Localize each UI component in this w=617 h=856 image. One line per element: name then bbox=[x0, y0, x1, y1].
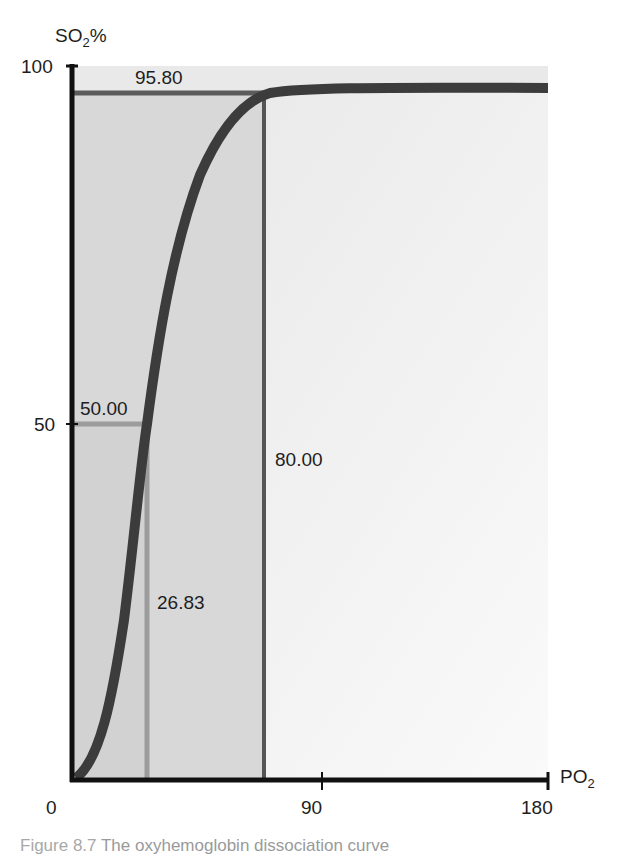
y-tick-label-100: 100 bbox=[21, 56, 53, 78]
figure-caption-text: The oxyhemoglobin dissociation curve bbox=[101, 836, 389, 855]
x-axis-title: PO2 bbox=[560, 766, 595, 788]
x-tick-label-0: 0 bbox=[46, 797, 57, 819]
x-axis-title-text: PO bbox=[560, 766, 587, 787]
annotation-sat-95-80: 95.80 bbox=[135, 67, 183, 89]
figure-caption: Figure 8.7 The oxyhemoglobin dissociatio… bbox=[20, 836, 389, 856]
annotation-sat-50: 50.00 bbox=[80, 398, 128, 420]
x-tick-label-90: 90 bbox=[301, 797, 322, 819]
x-axis-title-subscript: 2 bbox=[587, 776, 594, 791]
x-tick-label-180: 180 bbox=[521, 797, 553, 819]
annotation-po2-80: 80.00 bbox=[275, 449, 323, 471]
y-tick-label-50: 50 bbox=[34, 414, 55, 436]
figure-number: Figure 8.7 bbox=[20, 836, 97, 855]
annotation-p50-26-83: 26.83 bbox=[157, 592, 205, 614]
y-axis-title-suffix: % bbox=[90, 25, 107, 46]
y-axis-title-text: SO bbox=[55, 25, 82, 46]
y-axis-title: SO2% bbox=[55, 25, 107, 47]
y-axis-title-subscript: 2 bbox=[82, 35, 89, 50]
